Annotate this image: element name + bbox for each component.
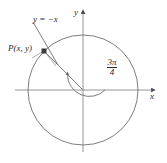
angle-numerator: 3π <box>106 58 117 67</box>
angle-fraction: 3π 4 <box>106 58 117 77</box>
line-equation-label: y = −x <box>33 15 58 24</box>
terminal-ray <box>44 51 83 90</box>
angle-denominator: 4 <box>106 68 117 77</box>
point-marker-p <box>42 49 47 54</box>
unit-circle-figure: y x y = −x P(x, y) 3π 4 <box>0 0 167 163</box>
x-axis-label: x <box>150 92 154 101</box>
y-axis-label: y <box>74 8 78 17</box>
angle-label: 3π 4 <box>100 58 124 77</box>
point-label-p: P(x, y) <box>8 44 32 53</box>
angle-arc <box>67 74 105 96</box>
figure-canvas <box>0 0 167 163</box>
